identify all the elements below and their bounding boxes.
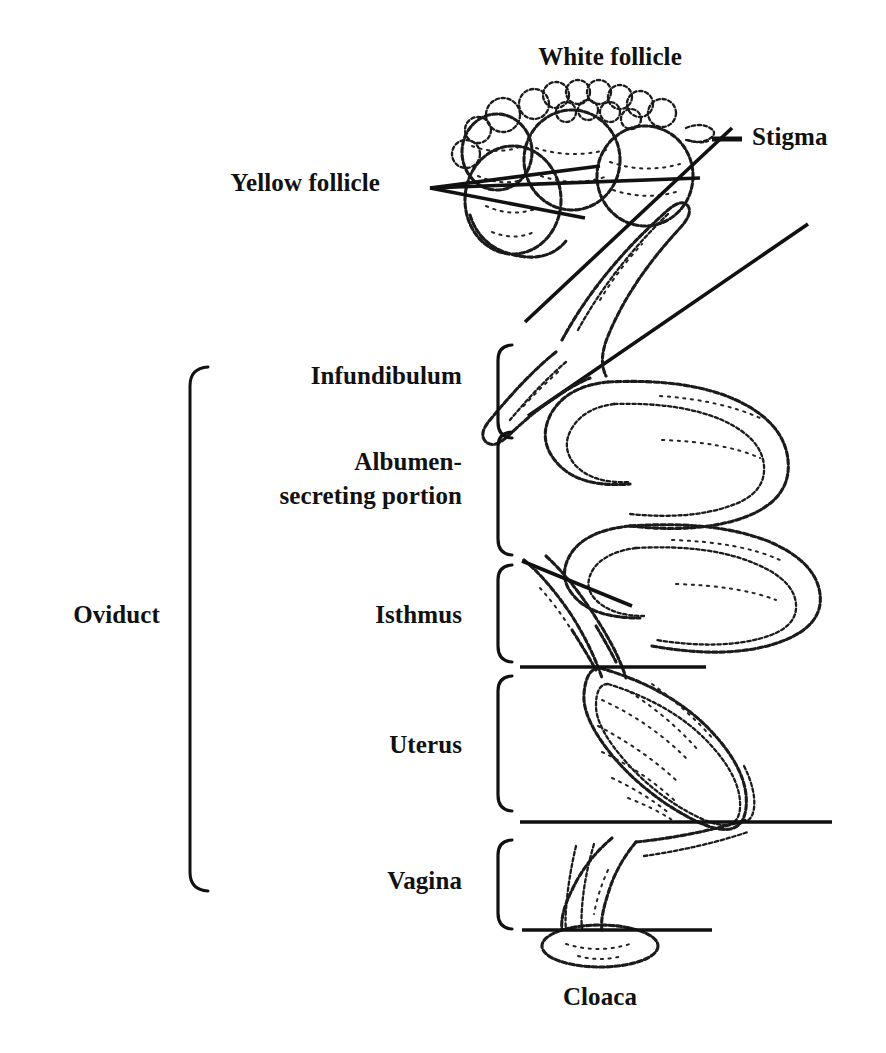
bracket-uterus: [498, 676, 512, 811]
bracket-vagina: [498, 840, 512, 929]
label-stigma: Stigma: [752, 122, 828, 152]
label-albumen-line1: Albumen-: [200, 447, 462, 477]
vagina-segment: [562, 820, 748, 930]
label-yellow-follicle: Yellow follicle: [60, 168, 380, 198]
label-oviduct: Oviduct: [10, 600, 160, 630]
diagram-root: White follicle Stigma Yellow follicle In…: [0, 0, 886, 1053]
segment-brackets: [498, 345, 512, 929]
label-cloaca: Cloaca: [470, 982, 730, 1012]
label-uterus: Uterus: [200, 730, 462, 760]
label-white-follicle: White follicle: [440, 42, 780, 72]
label-infundibulum: Infundibulum: [200, 361, 462, 391]
bracket-infundibulum: [498, 345, 512, 438]
bracket-albumen: [498, 432, 512, 555]
uterus-shell-gland: [572, 626, 754, 829]
label-isthmus: Isthmus: [200, 600, 462, 630]
label-albumen-line2: secreting portion: [180, 481, 462, 511]
magnum-coils: [545, 381, 820, 652]
label-vagina: Vagina: [200, 866, 462, 896]
infundibulum-funnel: [483, 203, 690, 445]
bracket-isthmus: [498, 565, 512, 662]
